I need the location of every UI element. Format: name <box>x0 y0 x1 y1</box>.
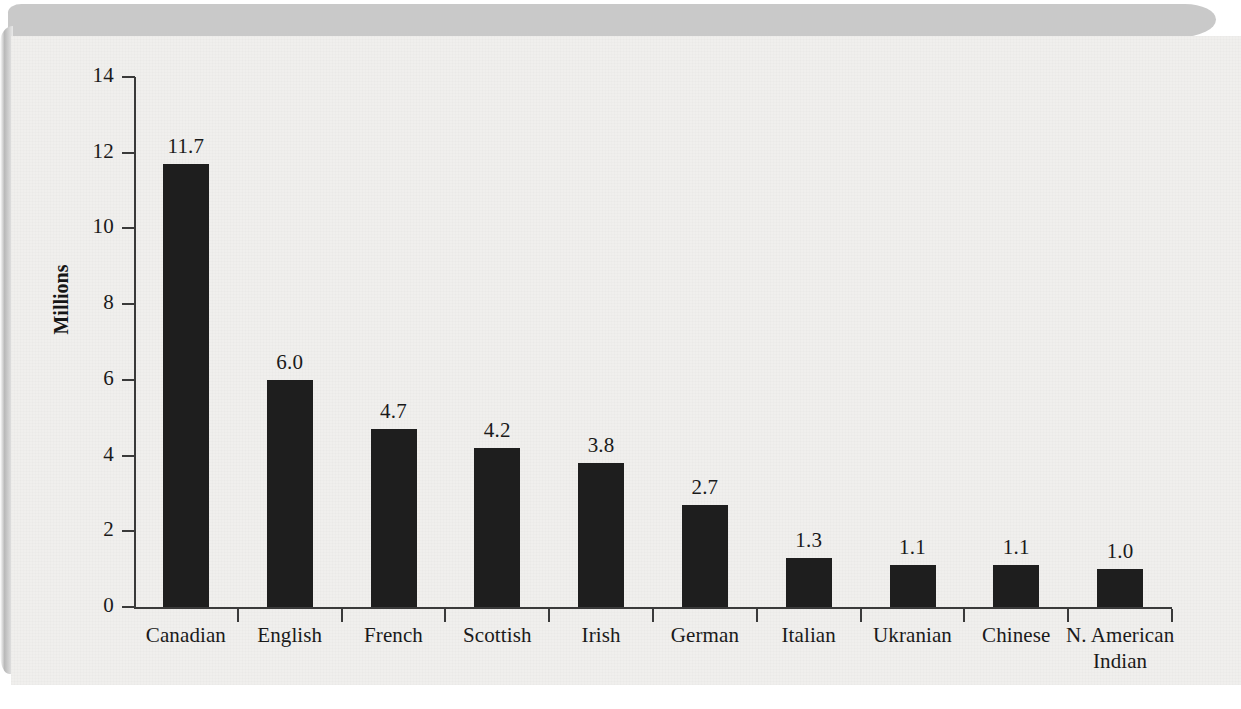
x-axis-tick <box>237 609 239 622</box>
y-axis-tick-label: 12 <box>70 139 114 164</box>
x-axis-tick <box>860 609 862 622</box>
bar-value-label: 1.1 <box>863 535 963 560</box>
bar <box>267 380 313 607</box>
bar-value-label: 2.7 <box>655 475 755 500</box>
bar <box>786 558 832 607</box>
y-axis-tick <box>122 455 135 457</box>
bar <box>890 565 936 607</box>
bar <box>1097 569 1143 607</box>
y-axis-tick-label: 10 <box>70 214 114 239</box>
bar-value-label: 3.8 <box>551 433 651 458</box>
bar-chart: Millions 14121086420 11.76.04.74.23.82.7… <box>0 0 1241 709</box>
x-axis-tick <box>1067 609 1069 622</box>
y-axis-tick-label: 6 <box>70 366 114 391</box>
bar <box>578 463 624 607</box>
x-axis-category-label-line: N. American <box>1050 622 1190 648</box>
y-axis-tick-label: 14 <box>70 63 114 88</box>
x-axis-category-label-line: Indian <box>1050 648 1190 674</box>
bar <box>163 164 209 607</box>
bar <box>371 429 417 607</box>
bar <box>474 448 520 607</box>
y-axis-tick <box>122 227 135 229</box>
x-axis-category-label: N. AmericanIndian <box>1050 622 1190 674</box>
y-axis-tick-label: 0 <box>70 593 114 618</box>
bar <box>682 505 728 607</box>
x-axis-tick <box>444 609 446 622</box>
y-axis-tick <box>122 606 135 608</box>
x-axis-tick <box>756 609 758 622</box>
y-axis-tick <box>122 76 135 78</box>
bar-value-label: 11.7 <box>136 134 236 159</box>
bar-value-label: 4.7 <box>344 399 444 424</box>
y-axis-tick <box>122 379 135 381</box>
bar-value-label: 4.2 <box>447 418 547 443</box>
bar-value-label: 6.0 <box>240 350 340 375</box>
x-axis-tick <box>548 609 550 622</box>
y-axis-tick-label: 8 <box>70 290 114 315</box>
x-axis-tick <box>1171 609 1173 622</box>
bar-value-label: 1.0 <box>1070 539 1170 564</box>
x-axis-tick <box>341 609 343 622</box>
bar <box>993 565 1039 607</box>
y-axis-tick <box>122 303 135 305</box>
y-axis-tick-label: 2 <box>70 517 114 542</box>
y-axis-tick <box>122 152 135 154</box>
x-axis-tick <box>652 609 654 622</box>
y-axis-tick-label: 4 <box>70 442 114 467</box>
bar-value-label: 1.3 <box>759 528 859 553</box>
x-axis-tick <box>963 609 965 622</box>
y-axis-tick <box>122 530 135 532</box>
bar-value-label: 1.1 <box>966 535 1066 560</box>
